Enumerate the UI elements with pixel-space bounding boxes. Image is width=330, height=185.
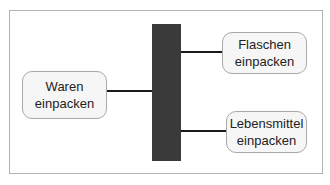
connector-root bbox=[106, 90, 152, 92]
node-label-line1: Flaschen bbox=[235, 36, 294, 53]
node-label-line1: Waren bbox=[35, 78, 94, 95]
node-waren-einpacken: Waren einpacken bbox=[22, 71, 107, 119]
node-lebensmittel-einpacken: Lebensmittel einpacken bbox=[226, 111, 307, 153]
connector-child-1 bbox=[181, 51, 222, 53]
node-label-line2: einpacken bbox=[35, 95, 94, 112]
node-label-line2: einpacken bbox=[230, 132, 304, 149]
node-flaschen-einpacken: Flaschen einpacken bbox=[222, 32, 307, 74]
node-label-line1: Lebensmittel bbox=[230, 115, 304, 132]
branch-bar bbox=[152, 24, 181, 161]
node-label-line2: einpacken bbox=[235, 53, 294, 70]
connector-child-2 bbox=[181, 130, 226, 132]
